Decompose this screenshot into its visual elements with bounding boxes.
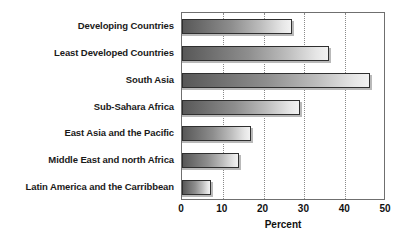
category-label: South Asia	[126, 72, 174, 87]
x-tick-label: 0	[178, 203, 184, 214]
x-tick-label: 30	[298, 203, 309, 214]
x-tick-label: 50	[379, 203, 390, 214]
category-label: Developing Countries	[78, 18, 174, 33]
x-tick-label: 10	[216, 203, 227, 214]
x-tick-label: 20	[257, 203, 268, 214]
gridline-30	[304, 13, 305, 199]
bar	[182, 153, 239, 168]
category-label: Latin America and the Carribbean	[26, 179, 175, 194]
x-axis-title: Percent	[181, 219, 385, 230]
category-label: Least Developed Countries	[54, 45, 174, 60]
value-axis: 01020304050	[181, 201, 385, 219]
category-label: Middle East and north Africa	[48, 152, 174, 167]
bar	[182, 126, 251, 141]
bar-chart: Developing CountriesLeast Developed Coun…	[0, 0, 411, 246]
category-axis: Developing CountriesLeast Developed Coun…	[0, 12, 178, 200]
bar	[182, 73, 370, 88]
bar	[182, 100, 300, 115]
gridline-40	[345, 13, 346, 199]
category-label: Sub-Sahara Africa	[94, 99, 174, 114]
x-tick-label: 40	[339, 203, 350, 214]
category-label: East Asia and the Pacific	[64, 125, 174, 140]
bar	[182, 46, 329, 61]
bar	[182, 19, 292, 34]
plot-area	[181, 12, 385, 200]
bar	[182, 180, 211, 195]
